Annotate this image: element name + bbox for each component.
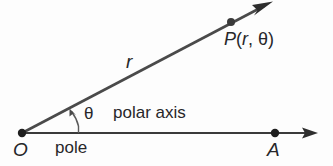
angle-theta-label: θ [84, 105, 93, 122]
polar-axis-label: polar axis [113, 104, 186, 121]
point-p-label: P(r, θ) [224, 30, 274, 48]
diagram-canvas [0, 0, 333, 166]
point-p-comma: , [248, 29, 253, 49]
angle-arc-arrowhead [70, 109, 77, 117]
radius-ray-arrowhead [252, 2, 273, 16]
radius-label: r [126, 52, 132, 71]
point-p-name: P [224, 29, 236, 49]
point-p-theta-arg: θ [258, 29, 268, 49]
axis-point-a-dot [271, 129, 279, 137]
origin-label: O [13, 140, 28, 159]
polar-coordinate-diagram: O A r θ pole polar axis P(r, θ) [0, 0, 333, 166]
axis-point-a-label: A [267, 140, 280, 159]
point-p-dot [227, 18, 235, 26]
pole-label: pole [55, 139, 87, 156]
point-p-close-paren: ) [268, 29, 274, 49]
origin-point-dot [18, 129, 26, 137]
